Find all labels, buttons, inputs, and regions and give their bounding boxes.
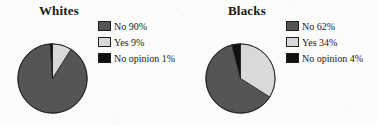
legend-whites: No 90% Yes 9% No opinion 1% — [98, 19, 175, 67]
legend-item-no-opinion: No opinion 4% — [286, 51, 363, 65]
pie-chart-figure: Whites Yes 9%No 90%No opinion 1% No 90% … — [0, 0, 377, 125]
pie-chart-blacks: Yes 34%No 62%No opinion 4% — [205, 43, 276, 114]
pie-chart-whites: Yes 9%No 90%No opinion 1% — [17, 43, 88, 114]
chart-panel-whites: Whites Yes 9%No 90%No opinion 1% No 90% … — [0, 0, 188, 125]
legend-item-no: No 62% — [286, 19, 363, 33]
chart-title-whites: Whites — [0, 3, 118, 18]
legend-item-no-opinion: No opinion 1% — [98, 51, 175, 65]
legend-swatch-no — [98, 21, 111, 31]
legend-item-yes: Yes 34% — [286, 35, 363, 49]
legend-item-no: No 90% — [98, 19, 175, 33]
legend-swatch-yes — [98, 37, 111, 47]
legend-label-yes: Yes 34% — [302, 37, 337, 48]
legend-label-yes: Yes 9% — [114, 37, 144, 48]
legend-label-no: No 62% — [302, 21, 335, 32]
legend-label-no-opinion: No opinion 1% — [114, 53, 175, 64]
chart-panel-blacks: Blacks Yes 34%No 62%No opinion 4% No 62%… — [188, 0, 377, 125]
legend-swatch-no-opinion — [286, 53, 299, 63]
legend-swatch-no — [286, 21, 299, 31]
legend-label-no: No 90% — [114, 21, 147, 32]
legend-item-yes: Yes 9% — [98, 35, 175, 49]
legend-swatch-yes — [286, 37, 299, 47]
legend-blacks: No 62% Yes 34% No opinion 4% — [286, 19, 363, 67]
pie-svg-whites: Yes 9%No 90%No opinion 1% — [17, 43, 88, 114]
legend-label-no-opinion: No opinion 4% — [302, 53, 363, 64]
legend-swatch-no-opinion — [98, 53, 111, 63]
chart-title-blacks: Blacks — [188, 3, 306, 18]
pie-svg-blacks: Yes 34%No 62%No opinion 4% — [205, 43, 276, 114]
